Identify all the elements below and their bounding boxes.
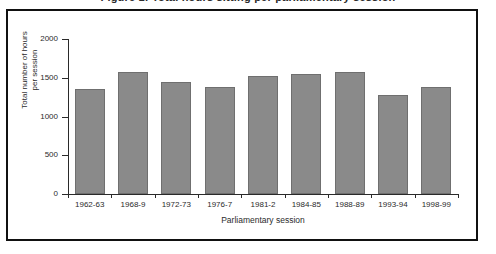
bar xyxy=(205,87,235,194)
bar xyxy=(161,82,191,194)
x-axis-tick xyxy=(111,194,112,198)
bar-chart-plot-area: Total number of hours per session 050010… xyxy=(8,11,476,239)
bar xyxy=(118,72,148,194)
x-axis-tick-label: 1962-63 xyxy=(68,200,111,209)
x-axis-tick-label: 1981-2 xyxy=(241,200,284,209)
y-axis-tick xyxy=(62,117,69,118)
y-axis-tick xyxy=(62,78,69,79)
x-axis-tick xyxy=(458,194,459,198)
y-axis-tick-label: 2000 xyxy=(8,35,58,43)
x-axis-tick-label: 1998-99 xyxy=(415,200,458,209)
bar xyxy=(248,76,278,194)
y-axis-tick-label: 0 xyxy=(8,190,58,198)
x-axis-tick xyxy=(155,194,156,198)
bar xyxy=(421,87,451,194)
bar xyxy=(378,95,408,194)
y-axis-title: Total number of hours per session xyxy=(20,0,42,145)
y-axis-tick xyxy=(62,155,69,156)
x-axis-tick xyxy=(198,194,199,198)
x-axis-line xyxy=(68,194,458,195)
x-axis-tick-label: 1968-9 xyxy=(111,200,154,209)
bar xyxy=(75,89,105,194)
y-axis-title-line-1: Total number of hours xyxy=(20,0,30,145)
x-axis-tick xyxy=(415,194,416,198)
x-axis-tick-label: 1972-73 xyxy=(155,200,198,209)
clipped-figure-title: Figure 1: Total hours sitting per parlia… xyxy=(0,0,496,9)
x-axis-tick-label: 1976-7 xyxy=(198,200,241,209)
x-axis-title: Parliamentary session xyxy=(68,215,458,225)
y-axis-tick xyxy=(62,39,69,40)
x-axis-tick xyxy=(285,194,286,198)
bar xyxy=(335,72,365,194)
figure-title-text: Figure 1: Total hours sitting per parlia… xyxy=(0,0,496,3)
x-axis-tick xyxy=(68,194,69,198)
y-axis-title-line-2: per session xyxy=(30,0,40,145)
x-axis-tick-label: 1984-85 xyxy=(285,200,328,209)
x-axis-tick-label: 1993-94 xyxy=(371,200,414,209)
y-axis-tick-label: 1500 xyxy=(8,74,58,82)
x-axis-tick xyxy=(371,194,372,198)
x-axis-tick xyxy=(241,194,242,198)
chart-frame: Total number of hours per session 050010… xyxy=(6,9,478,241)
x-axis-tick xyxy=(328,194,329,198)
y-axis-tick-label: 500 xyxy=(8,151,58,159)
y-axis-tick-label: 1000 xyxy=(8,113,58,121)
bar xyxy=(291,74,321,194)
x-axis-tick-label: 1988-89 xyxy=(328,200,371,209)
